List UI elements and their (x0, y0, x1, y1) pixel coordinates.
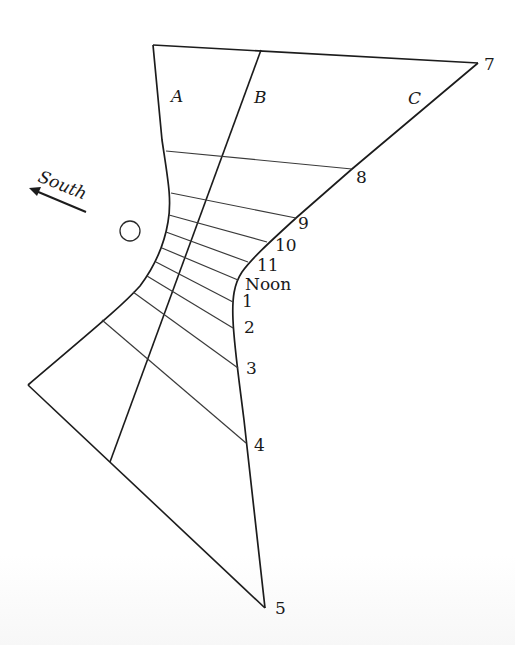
hour-line-5 (28, 385, 265, 608)
line-b (110, 50, 261, 462)
hour-line-1 (156, 262, 233, 302)
sundial-diagram: South A B C 7 8 9 10 11 Noon 1 2 3 4 5 (0, 0, 515, 645)
hour-line-9 (171, 193, 296, 218)
line-label-c: C (408, 88, 421, 108)
south-label: South (36, 166, 90, 204)
hour-line-7 (153, 45, 478, 63)
hour-line-11 (166, 232, 248, 262)
hour-line-2 (147, 276, 233, 328)
line-label-a: A (169, 86, 183, 106)
line-label-b: B (253, 87, 267, 107)
hour-label-11: 11 (257, 255, 279, 275)
hour-label-9: 9 (298, 213, 309, 233)
hour-line-8 (166, 151, 352, 169)
gnomon-circle-icon (120, 221, 140, 241)
hour-label-7: 7 (484, 54, 495, 74)
hour-label-8: 8 (356, 167, 367, 187)
hour-line-noon (162, 248, 238, 280)
line-c-boundary (233, 63, 478, 608)
line-a-boundary (28, 45, 170, 385)
hour-label-1: 1 (242, 291, 253, 311)
hour-label-5: 5 (275, 598, 286, 618)
hour-label-3: 3 (246, 358, 257, 378)
hour-label-2: 2 (244, 317, 255, 337)
hour-label-4: 4 (254, 435, 265, 455)
hour-label-10: 10 (275, 235, 297, 255)
